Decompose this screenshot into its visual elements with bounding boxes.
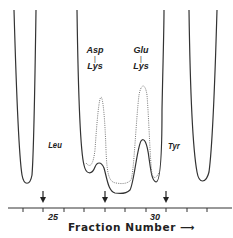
glu-lys-peak-label: Glu | Lys xyxy=(129,46,153,71)
chromatogram-plot xyxy=(0,0,233,238)
fraction-marker-arrow-2 xyxy=(102,191,108,203)
asp-lys-peak-label: Asp | Lys xyxy=(83,46,107,71)
fraction-marker-arrow-3 xyxy=(163,191,169,203)
x-axis-title-text: Fraction Number xyxy=(68,221,176,233)
glu-lys-label: Lys xyxy=(133,61,149,71)
asp-lys-label: Lys xyxy=(87,61,103,71)
middle-solid-curve xyxy=(77,10,164,194)
asp-label: Asp xyxy=(86,45,103,55)
tyr-label: Tyr xyxy=(168,142,180,151)
right-arrow-icon: ⟶ xyxy=(180,222,195,233)
right-elution-curve xyxy=(189,10,217,181)
middle-dotted-curve xyxy=(86,86,160,184)
x-axis-title: Fraction Number⟶ xyxy=(68,221,195,233)
fraction-marker-arrow-1 xyxy=(40,191,46,203)
glu-label: Glu xyxy=(134,45,149,55)
leu-elution-curve-left xyxy=(14,10,36,183)
tick-label-25: 25 xyxy=(43,212,63,222)
leu-label: Leu xyxy=(48,141,62,150)
